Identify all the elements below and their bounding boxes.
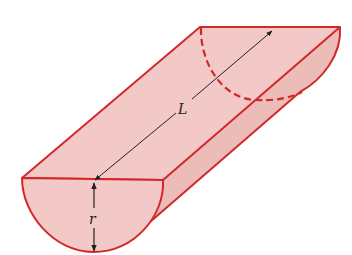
length-label: L xyxy=(177,101,187,117)
half-cylinder-diagram: L r xyxy=(0,0,352,255)
